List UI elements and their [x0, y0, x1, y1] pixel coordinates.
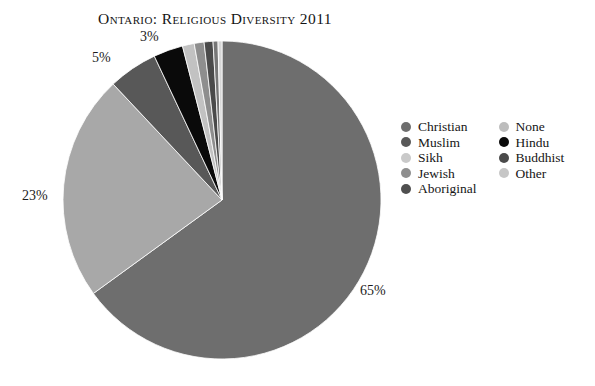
legend-swatch-icon-none [499, 122, 509, 132]
legend-item-none[interactable]: None [499, 119, 565, 135]
legend-column-2: NoneHinduBuddhistOther [499, 119, 565, 197]
pie-slice-group [63, 41, 381, 359]
legend-swatch-icon-aboriginal [401, 184, 411, 194]
legend-item-sikh[interactable]: Sikh [401, 150, 477, 166]
legend-swatch-icon-christian [401, 122, 411, 132]
legend-label-other: Other [516, 166, 547, 182]
legend-item-christian[interactable]: Christian [401, 119, 477, 135]
legend-label-none: None [516, 119, 545, 135]
pie-label-hindu: 3% [140, 29, 159, 45]
chart-legend: ChristianMuslimSikhJewishAboriginalNoneH… [401, 119, 591, 197]
pie-label-christian: 65% [360, 283, 386, 299]
legend-item-other[interactable]: Other [499, 166, 565, 182]
pie-chart-graphic [62, 40, 382, 360]
legend-label-muslim: Muslim [418, 135, 460, 151]
legend-column-1: ChristianMuslimSikhJewishAboriginal [401, 119, 477, 197]
legend-item-buddhist[interactable]: Buddhist [499, 150, 565, 166]
legend-item-hindu[interactable]: Hindu [499, 135, 565, 151]
legend-swatch-icon-other [499, 168, 509, 178]
legend-item-jewish[interactable]: Jewish [401, 166, 477, 182]
pie-label-muslim: 5% [92, 50, 111, 66]
legend-swatch-icon-muslim [401, 137, 411, 147]
legend-label-buddhist: Buddhist [516, 150, 565, 166]
legend-swatch-icon-sikh [401, 153, 411, 163]
legend-label-aboriginal: Aboriginal [418, 181, 477, 197]
pie-label-none: 23% [22, 188, 48, 204]
legend-swatch-icon-buddhist [499, 153, 509, 163]
legend-swatch-icon-jewish [401, 168, 411, 178]
legend-swatch-icon-hindu [499, 137, 509, 147]
chart-title: Ontario: Religious Diversity 2011 [0, 10, 430, 28]
legend-item-muslim[interactable]: Muslim [401, 135, 477, 151]
legend-label-hindu: Hindu [516, 135, 550, 151]
legend-item-aboriginal[interactable]: Aboriginal [401, 181, 477, 197]
pie-chart-figure: Ontario: Religious Diversity 2011 65% 23… [0, 0, 595, 386]
legend-label-christian: Christian [418, 119, 468, 135]
legend-label-jewish: Jewish [418, 166, 455, 182]
legend-label-sikh: Sikh [418, 150, 443, 166]
